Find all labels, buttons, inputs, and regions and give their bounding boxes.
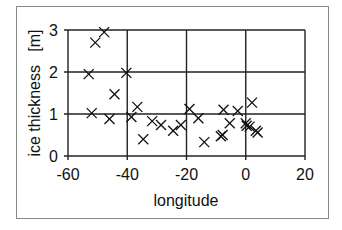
data-points: [84, 27, 263, 147]
x-marker: [138, 134, 148, 144]
x-marker: [247, 98, 257, 108]
x-marker: [110, 89, 120, 99]
y-tick-label: 0: [49, 148, 58, 165]
x-marker: [199, 137, 209, 147]
y-tick-label: 2: [49, 64, 58, 81]
x-marker: [168, 126, 178, 136]
x-marker: [225, 118, 235, 128]
x-marker: [176, 120, 186, 130]
y-tick-label: 3: [49, 22, 58, 39]
x-tick-label: -20: [175, 166, 198, 183]
x-tick-label: -60: [56, 166, 79, 183]
x-marker: [84, 69, 94, 79]
x-marker: [156, 120, 166, 130]
x-marker: [99, 27, 109, 37]
x-marker: [104, 114, 114, 124]
x-tick-label: 0: [241, 166, 250, 183]
x-marker: [147, 116, 157, 126]
grid-lines: [64, 30, 305, 160]
y-tick-label: 1: [49, 106, 58, 123]
x-marker: [132, 102, 142, 112]
x-tick-label: 20: [296, 166, 314, 183]
x-marker: [121, 68, 131, 78]
x-marker: [87, 108, 97, 118]
y-axis-label: ice thickness [m]: [26, 29, 43, 156]
y-axis-ticks: 0123: [49, 22, 58, 165]
x-tick-label: -40: [116, 166, 139, 183]
x-axis-ticks: -60-40-20020: [56, 166, 314, 183]
scatter-chart: 0123 -60-40-20020 longitude ice thicknes…: [0, 0, 342, 230]
x-marker: [90, 38, 100, 48]
x-axis-label: longitude: [154, 192, 219, 209]
